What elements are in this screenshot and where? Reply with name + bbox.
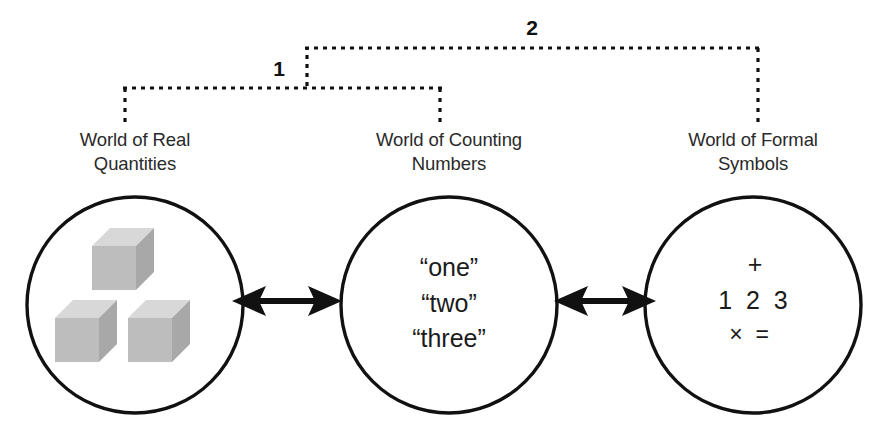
label-line-2: Symbols bbox=[653, 152, 853, 176]
bracket-label-2: 2 bbox=[521, 17, 543, 38]
formal-numerals: 1 2 3 bbox=[653, 283, 853, 319]
diagram-canvas: 1 2 World of Real Quantities World of Co… bbox=[0, 0, 884, 423]
counting-word-one: “one” bbox=[349, 250, 549, 286]
counting-word-three: “three” bbox=[349, 321, 549, 357]
label-world-formal-symbols: World of Formal Symbols bbox=[653, 128, 853, 175]
formal-symbols-group: + 1 2 3 × = bbox=[653, 247, 853, 351]
cube-bottom-left bbox=[55, 300, 117, 362]
label-line-1: World of Formal bbox=[653, 128, 853, 152]
label-world-real-quantities: World of Real Quantities bbox=[35, 128, 235, 175]
formal-symbol-plus: + bbox=[657, 247, 853, 283]
counting-words-group: “one” “two” “three” bbox=[349, 250, 549, 357]
label-line-2: Numbers bbox=[344, 152, 554, 176]
arrow-counting-to-formal bbox=[554, 286, 656, 316]
label-line-2: Quantities bbox=[35, 152, 235, 176]
label-line-1: World of Real bbox=[35, 128, 235, 152]
label-line-1: World of Counting bbox=[344, 128, 554, 152]
arrow-real-to-counting bbox=[232, 286, 342, 316]
bracket-2-connector bbox=[305, 48, 760, 126]
counting-word-two: “two” bbox=[349, 286, 549, 322]
label-world-counting-numbers: World of Counting Numbers bbox=[344, 128, 554, 175]
bracket-1-connector bbox=[123, 88, 442, 126]
diagram-graphics bbox=[0, 0, 884, 423]
cube-top bbox=[92, 228, 154, 290]
formal-symbol-times-equals: × = bbox=[645, 318, 853, 351]
cube-bottom-right bbox=[128, 300, 190, 362]
bracket-label-1: 1 bbox=[268, 58, 290, 79]
